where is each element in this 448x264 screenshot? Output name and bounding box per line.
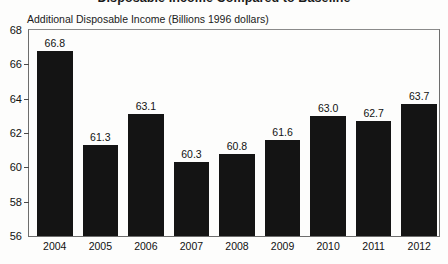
y-axis-label: 56: [10, 230, 22, 242]
bar-value-label: 61.3: [90, 131, 110, 143]
x-axis-label: 2008: [225, 240, 248, 252]
x-axis-label: 2007: [180, 240, 203, 252]
chart-subtitle: Additional Disposable Income (Billions 1…: [27, 13, 269, 25]
bar: 63.1: [128, 114, 164, 236]
x-axis-label: 2004: [43, 240, 66, 252]
y-axis-tick-mark: [24, 202, 29, 203]
y-axis-tick-mark: [24, 133, 29, 134]
y-axis-tick-mark: [24, 99, 29, 100]
bar: 62.7: [356, 121, 392, 236]
x-axis-label: 2005: [89, 240, 112, 252]
bar-value-label: 61.6: [272, 126, 292, 138]
bar-value-label: 63.1: [136, 100, 156, 112]
bar-value-label: 60.3: [181, 148, 201, 160]
bar-value-label: 62.7: [363, 107, 383, 119]
x-axis-label: 2010: [316, 240, 339, 252]
bar: 61.3: [83, 145, 119, 236]
y-axis-label: 66: [10, 58, 22, 70]
bar: 61.6: [265, 140, 301, 236]
y-axis-tick-mark: [24, 167, 29, 168]
bar-value-label: 63.0: [318, 102, 338, 114]
bar: 63.7: [401, 104, 437, 236]
y-axis-tick-mark: [24, 64, 29, 65]
bar: 63.0: [310, 116, 346, 236]
bar-value-label: 63.7: [409, 90, 429, 102]
y-axis-label: 64: [10, 93, 22, 105]
bar: 60.8: [219, 154, 255, 236]
plot-inner: 5658606264666866.861.363.160.360.861.663…: [29, 30, 439, 236]
plot-area: 5658606264666866.861.363.160.360.861.663…: [28, 29, 440, 237]
y-axis-label: 62: [10, 127, 22, 139]
chart-title: Disposable Income Compared to Baseline: [0, 0, 448, 5]
bar-value-label: 60.8: [227, 140, 247, 152]
bar: 60.3: [174, 162, 210, 236]
bar: 66.8: [37, 51, 73, 236]
x-axis-label: 2012: [408, 240, 431, 252]
x-axis-label: 2011: [362, 240, 385, 252]
x-axis-label: 2009: [271, 240, 294, 252]
y-axis-label: 60: [10, 161, 22, 173]
bar-value-label: 66.8: [45, 37, 65, 49]
x-axis-label: 2006: [134, 240, 157, 252]
y-axis-label: 58: [10, 196, 22, 208]
y-axis-label: 68: [10, 24, 22, 36]
bar-chart-figure: Disposable Income Compared to Baseline A…: [0, 0, 448, 264]
